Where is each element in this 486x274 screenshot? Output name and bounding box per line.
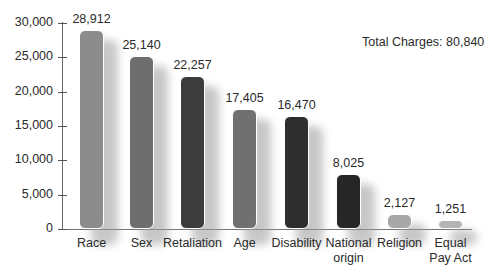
y-tick-label: 0: [3, 221, 53, 235]
y-tick-label: 25,000: [3, 49, 53, 63]
y-tick-mark: [58, 195, 67, 196]
bar-value-label: 25,140: [112, 38, 172, 52]
y-tick-label: 30,000: [3, 15, 53, 29]
category-label: EqualPay Act: [416, 236, 486, 266]
bar-value-label: 1,251: [421, 202, 481, 216]
y-tick-mark: [58, 229, 67, 230]
y-tick-label: 10,000: [3, 152, 53, 166]
bar-retaliation: [180, 76, 205, 229]
y-tick-mark: [58, 126, 67, 127]
y-tick-mark: [58, 92, 67, 93]
y-tick-label: 15,000: [3, 118, 53, 132]
bar-equal-pay-act: [438, 220, 463, 229]
total-charges-annotation: Total Charges: 80,840: [362, 35, 484, 49]
bar-value-label: 28,912: [62, 12, 122, 26]
bar-sex: [129, 56, 154, 229]
bar-age: [232, 109, 257, 229]
bar-value-label: 17,405: [215, 91, 275, 105]
bar-race: [79, 30, 104, 229]
bar-religion: [387, 214, 412, 229]
y-tick-label: 20,000: [3, 84, 53, 98]
bar-value-label: 22,257: [163, 58, 223, 72]
y-tick-label: 5,000: [3, 187, 53, 201]
bar-disability: [284, 116, 309, 229]
bar-value-label: 16,470: [267, 98, 327, 112]
y-tick-mark: [58, 57, 67, 58]
y-tick-mark: [58, 160, 67, 161]
bar-value-label: 8,025: [319, 156, 379, 170]
bar-national-origin: [336, 174, 361, 229]
